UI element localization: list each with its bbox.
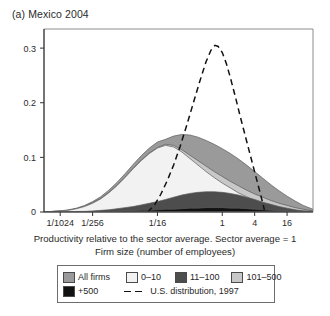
x-axis-tick-label: 1/1024	[46, 218, 74, 228]
legend-item-0-10[interactable]: 0–10	[126, 272, 161, 283]
x-axis-caption-line2: Firm size (number of employees)	[0, 245, 330, 258]
y-axis-tick-label: 0	[31, 207, 36, 217]
chart-series-group	[44, 45, 313, 212]
x-axis-caption-line1: Productivity relative to the sector aver…	[0, 232, 330, 245]
x-axis-tick-label: 1/256	[81, 218, 104, 228]
legend-row: +500U.S. distribution, 1997	[63, 284, 269, 298]
chart-legend: All firms0–1011–100101–500+500U.S. distr…	[57, 265, 275, 303]
legend-swatch-icon	[175, 272, 187, 283]
legend-label: 101–500	[246, 272, 281, 282]
legend-swatch-icon	[231, 272, 243, 283]
legend-label: U.S. distribution, 1997	[150, 286, 239, 296]
legend-label: 11–100	[190, 272, 219, 282]
y-axis: 00.10.20.3	[23, 44, 44, 218]
legend-label: All firms	[78, 272, 110, 282]
legend-swatch-icon	[63, 272, 75, 283]
legend-label: +500	[78, 286, 98, 296]
legend-swatch-icon	[63, 286, 75, 297]
chart-canvas: 00.10.20.31/10241/2561/161416	[0, 0, 330, 232]
legend-item-500[interactable]: +500	[63, 286, 98, 297]
legend-item-11-100[interactable]: 11–100	[175, 272, 219, 283]
legend-dashed-line-icon	[124, 287, 146, 296]
legend-item-u-s-distribution-1997[interactable]: U.S. distribution, 1997	[124, 286, 239, 296]
figure-panel: (a) Mexico 2004 00.10.20.31/10241/2561/1…	[0, 0, 330, 316]
y-axis-tick-label: 0.1	[23, 153, 36, 163]
legend-item-101-500[interactable]: 101–500	[231, 272, 281, 283]
x-axis-tick-label: 1/16	[149, 218, 167, 228]
y-axis-tick-label: 0.2	[23, 98, 36, 108]
y-axis-tick-label: 0.3	[23, 44, 36, 54]
x-axis-tick-label: 4	[252, 218, 257, 228]
legend-swatch-icon	[126, 272, 138, 283]
axis-caption-block: Productivity relative to the sector aver…	[0, 232, 330, 258]
legend-label: 0–10	[141, 272, 161, 282]
legend-row: All firms0–1011–100101–500	[63, 270, 269, 284]
legend-item-all-firms[interactable]: All firms	[63, 272, 110, 283]
x-axis-tick-label: 1	[220, 218, 225, 228]
x-axis-tick-label: 16	[282, 218, 292, 228]
x-axis: 1/10241/2561/161416	[46, 212, 292, 228]
